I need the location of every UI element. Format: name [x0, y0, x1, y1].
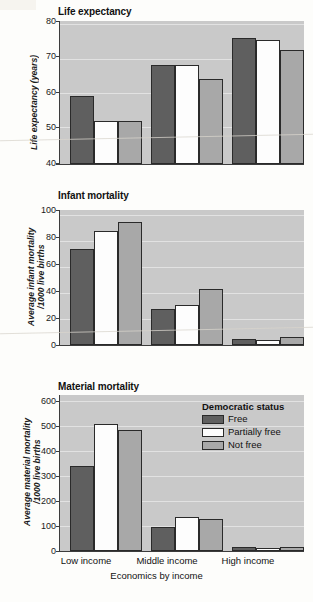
legend-label-partially-free: Partially free — [228, 427, 281, 437]
chart-panel-infant-mortality: Infant mortality Average infant mortalit… — [0, 190, 313, 370]
chart-title-infant-mortality: Infant mortality — [58, 190, 129, 201]
bar-low-income-free — [70, 96, 94, 164]
y-tick-100: 100 — [30, 522, 56, 531]
bar-middle-income-not-free — [199, 519, 223, 551]
legend-label-free: Free — [228, 414, 248, 424]
gridline — [60, 24, 304, 25]
y-tick-40: 40 — [30, 287, 56, 296]
bar-middle-income-free — [151, 309, 175, 345]
y-tick-300: 300 — [30, 472, 56, 481]
gridline — [60, 215, 304, 216]
chart-title-material-mortality: Material mortality — [58, 381, 139, 392]
bar-middle-income-free — [151, 527, 175, 552]
y-tick-80: 80 — [32, 17, 56, 26]
y-tick-500: 500 — [30, 422, 56, 431]
plot-area-infant-mortality — [59, 210, 304, 345]
chart-panel-life-expectancy: Life expectancy Life expectancy (years) … — [0, 0, 313, 190]
scan-artifact — [0, 0, 36, 10]
legend-item-partially-free[interactable]: Partially free — [202, 427, 281, 437]
legend-label-not-free: Not free — [228, 440, 262, 450]
x-axis-line — [56, 164, 304, 165]
x-category-high-income: High income — [198, 555, 298, 566]
bar-low-income-not-free — [118, 430, 142, 551]
x-axis-line — [56, 551, 304, 552]
legend-swatch-partially-free — [202, 428, 224, 437]
y-tick-600: 600 — [30, 397, 56, 406]
y-tick-100: 100 — [30, 206, 56, 215]
y-tick-70: 70 — [32, 52, 56, 61]
y-tick-60: 60 — [30, 260, 56, 269]
chart-panel-material-mortality: Material mortality Average material mort… — [0, 370, 313, 602]
bar-middle-income-free — [151, 65, 175, 164]
x-axis-line — [56, 345, 304, 346]
legend-swatch-not-free — [202, 441, 224, 450]
y-axis-label-life-expectancy: Life expectancy (years) — [29, 44, 39, 160]
legend-swatch-free — [202, 415, 224, 424]
bar-middle-income-not-free — [199, 79, 223, 164]
chart-title-life-expectancy: Life expectancy — [58, 6, 132, 17]
y-tick-40: 40 — [32, 159, 56, 168]
plot-area-life-expectancy — [59, 21, 304, 164]
bar-low-income-partially-free — [94, 231, 118, 345]
bar-middle-income-partially-free — [175, 65, 199, 164]
y-tick-50: 50 — [32, 123, 56, 132]
legend-item-free[interactable]: Free — [202, 414, 248, 424]
bar-high-income-not-free — [280, 337, 304, 345]
bar-middle-income-partially-free — [175, 305, 199, 345]
legend-item-not-free[interactable]: Not free — [202, 440, 262, 450]
y-tick-200: 200 — [30, 497, 56, 506]
bar-high-income-not-free — [280, 50, 304, 164]
bar-high-income-free — [232, 38, 256, 164]
legend-title: Democratic status — [202, 401, 284, 412]
bar-middle-income-not-free — [199, 289, 223, 345]
x-axis-title: Economics by income — [0, 570, 313, 581]
bar-low-income-partially-free — [94, 424, 118, 551]
plot-area-material-mortality: Democratic status Free Partially free No… — [59, 395, 304, 551]
y-tick-400: 400 — [30, 447, 56, 456]
y-tick-80: 80 — [30, 233, 56, 242]
y-tick-0: 0 — [30, 341, 56, 350]
bar-low-income-partially-free — [94, 121, 118, 164]
bar-high-income-partially-free — [256, 40, 280, 164]
bar-middle-income-partially-free — [175, 517, 199, 552]
bar-low-income-not-free — [118, 121, 142, 164]
y-tick-60: 60 — [32, 88, 56, 97]
bar-low-income-free — [70, 466, 94, 551]
bar-low-income-not-free — [118, 222, 142, 345]
y-tick-20: 20 — [30, 314, 56, 323]
